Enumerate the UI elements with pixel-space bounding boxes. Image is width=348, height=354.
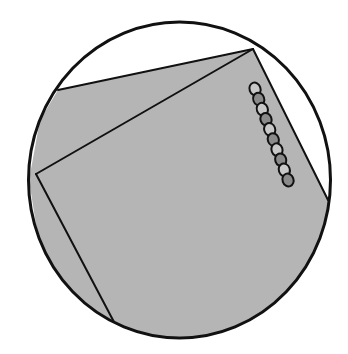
magnified-diagram: [0, 0, 348, 354]
diagram-canvas: [0, 0, 348, 354]
